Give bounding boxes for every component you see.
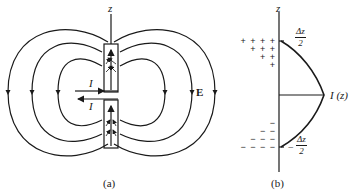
caption-a: (a) <box>103 178 115 189</box>
current-label-bottom: I <box>89 101 93 112</box>
panel-a <box>6 14 218 156</box>
z-axis-label-a: z <box>108 3 112 14</box>
current-label-top: I <box>89 78 93 89</box>
current-function-label: I (z) <box>330 90 348 101</box>
plus-charge-row-4: + <box>270 61 276 70</box>
caption-b: (b) <box>271 178 284 189</box>
field-line-left-inner <box>58 59 102 126</box>
current-distribution-curve <box>281 41 324 147</box>
field-line-right-inner <box>120 59 165 126</box>
field-line-right-middle <box>120 43 192 141</box>
z-axis-label-b: z <box>276 3 280 14</box>
delta-z-over-2-top: Δz 2 <box>295 27 306 48</box>
delta-z-over-2-bottom: Δz 2 <box>296 135 307 156</box>
field-label-e: E <box>196 87 203 98</box>
field-line-left-middle <box>32 43 102 141</box>
minus-charge-row-4: − − − − <box>240 143 276 152</box>
negative-sign: − <box>288 143 294 153</box>
